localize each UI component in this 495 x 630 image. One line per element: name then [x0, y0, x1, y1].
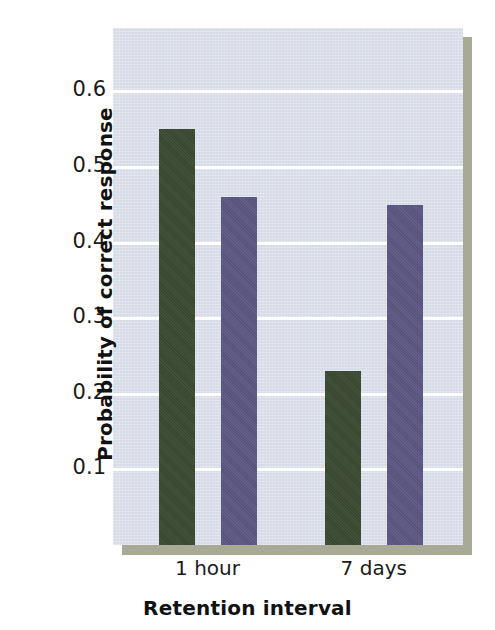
x-axis-title: Retention interval [0, 596, 495, 620]
y-axis-title: Probability of correct response [93, 74, 117, 494]
bar-1-hour-purple [221, 197, 257, 545]
bar-chart-figure: 0.60.50.40.30.20.1 Probability of correc… [0, 0, 495, 630]
bar-1-hour-green [159, 129, 195, 545]
bar-7-days-green [325, 371, 361, 545]
x-tick-label-1-hour: 1 hour [175, 556, 240, 580]
x-tick-label-7-days: 7 days [341, 556, 407, 580]
gridline-0.6 [113, 90, 463, 93]
plot-area [113, 28, 463, 545]
bar-7-days-purple [387, 205, 423, 545]
